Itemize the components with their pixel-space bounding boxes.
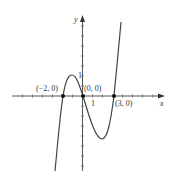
label-point-neg2: (−2, 0)	[36, 84, 58, 93]
zero-point-neg2	[61, 94, 65, 98]
cubic-graph: y x 1 1 (−2, 0) (0, 0) (3, 0)	[0, 0, 179, 178]
zero-point-origin	[81, 94, 85, 98]
label-point-3: (3, 0)	[115, 99, 133, 108]
x-axis-arrow-icon	[158, 94, 165, 99]
y-axis-label: y	[73, 15, 78, 24]
y-axis-arrow-icon	[80, 15, 85, 22]
zero-point-3	[112, 94, 116, 98]
x-axis-label: x	[159, 99, 164, 108]
x-tick-label-one: 1	[91, 99, 95, 108]
y-tick-label-one: 1	[78, 71, 82, 80]
label-point-origin: (0, 0)	[84, 84, 102, 93]
